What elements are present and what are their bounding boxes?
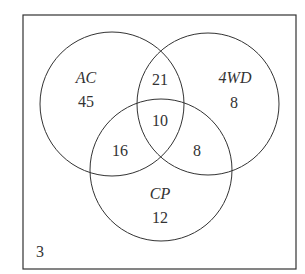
venn-diagram [0, 0, 305, 274]
set-label-ac: AC [76, 69, 96, 87]
set-label-cp: CP [150, 185, 170, 203]
region-4wd-only: 8 [230, 94, 238, 112]
region-outside: 3 [36, 243, 44, 261]
region-ac-only: 45 [78, 93, 94, 111]
circle-4wd [137, 33, 279, 175]
region-all-three: 10 [152, 112, 168, 130]
region-4wd-cp: 8 [193, 142, 201, 160]
region-cp-only: 12 [152, 209, 168, 227]
set-label-4wd: 4WD [219, 69, 252, 87]
region-ac-cp: 16 [112, 142, 128, 160]
region-ac-4wd: 21 [152, 71, 168, 89]
universal-set-box [23, 15, 296, 269]
